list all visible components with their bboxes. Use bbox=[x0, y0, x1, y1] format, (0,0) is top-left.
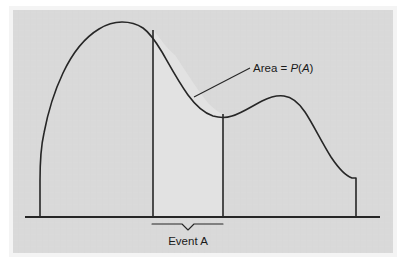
area-label: Area = P(A) bbox=[253, 62, 314, 74]
probability-density-figure: Area = P(A) Event A bbox=[0, 0, 406, 263]
event-a-label: Event A bbox=[168, 235, 208, 247]
figure-root: Area = P(A) Event A bbox=[0, 0, 406, 263]
area-label-paren-close: ) bbox=[310, 62, 314, 74]
area-label-var-a: A bbox=[301, 62, 310, 74]
area-label-prefix: Area = bbox=[253, 62, 290, 74]
